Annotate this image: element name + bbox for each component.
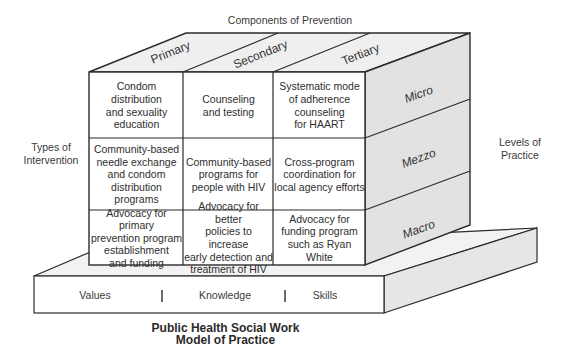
cell-line: and funding [90, 257, 183, 270]
diagram-title-line2: Model of Practice [0, 334, 508, 346]
cell-line: Advocacy for [274, 213, 365, 226]
cell-macro-primary: Advocacy for primary prevention program … [90, 211, 183, 265]
foundation-item-skills: Skills [290, 289, 360, 302]
cell-line: treatment of HIV [184, 263, 273, 276]
cell-line: Condom [106, 80, 167, 93]
cell-line: programs [94, 193, 179, 206]
cell-line: such as Ryan White [274, 238, 365, 263]
foundation-item-knowledge: Knowledge [180, 289, 270, 302]
cell-macro-secondary: Advocacy for better policies to increase… [184, 211, 273, 265]
cell-micro-secondary: Counseling and testing [184, 73, 273, 138]
components-of-prevention-title: Components of Prevention [200, 14, 380, 27]
types-of-intervention-text: Types of Intervention [24, 141, 79, 166]
cell-line: Community-based [94, 143, 179, 156]
cell-line: local agency efforts [274, 181, 364, 194]
cell-line: people with HIV [186, 181, 271, 194]
cell-line: Community-based [186, 156, 271, 169]
cell-line: establishment [90, 244, 183, 257]
cell-mezzo-tertiary: Cross-program coordination for local age… [274, 139, 365, 210]
cell-micro-primary: Condom distribution and sexuality educat… [90, 73, 183, 138]
cell-mezzo-primary: Community-based needle exchange and cond… [90, 139, 183, 210]
cell-line: coordination for [274, 168, 364, 181]
cell-line: Counseling [202, 93, 255, 106]
cell-macro-tertiary: Advocacy for funding program such as Rya… [274, 211, 365, 265]
foundation-item-values: Values [60, 289, 130, 302]
cell-line: needle exchange [94, 156, 179, 169]
cell-line: distribution [106, 93, 167, 106]
cell-line: policies to increase [184, 225, 273, 250]
cell-line: and testing [202, 106, 255, 119]
cell-line: Advocacy for primary [90, 207, 183, 232]
cell-line: Systematic mode [279, 80, 360, 93]
cell-line: early detection and [184, 251, 273, 264]
cell-line: distribution [94, 181, 179, 194]
cell-line: prevention program [90, 232, 183, 245]
cell-line: and condom [94, 168, 179, 181]
cell-line: for HAART [279, 118, 360, 131]
cell-line: and sexuality [106, 106, 167, 119]
cell-line: education [106, 118, 167, 131]
levels-of-practice-text: Levels of Practice [499, 136, 541, 161]
types-of-intervention-label: Types of Intervention [16, 141, 86, 166]
cell-line: of adherence [279, 93, 360, 106]
cell-line: programs for [186, 168, 271, 181]
cell-micro-tertiary: Systematic mode of adherence counseling … [274, 73, 365, 138]
cell-line: funding program [274, 225, 365, 238]
cell-line: Cross-program [274, 156, 364, 169]
levels-of-practice-label: Levels of Practice [490, 136, 550, 161]
cell-line: Advocacy for better [184, 200, 273, 225]
cell-line: counseling [279, 106, 360, 119]
